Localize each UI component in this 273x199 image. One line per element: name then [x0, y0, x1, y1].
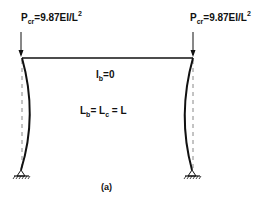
right-column-buckled — [185, 58, 193, 170]
beam-inertia-label: Ib=0 — [96, 70, 114, 82]
right-load-arrow-icon — [191, 32, 196, 57]
left-pin-support-icon — [13, 170, 30, 179]
load-symbol: P — [190, 12, 197, 23]
load-expression: =9.87EI/L — [203, 12, 247, 23]
right-load-label: Pcr=9.87EI/L2 — [190, 10, 251, 25]
load-superscript: 2 — [78, 10, 82, 17]
left-load-arrow-icon — [19, 32, 24, 57]
lc-subscript: c — [105, 111, 109, 118]
length-relation-label: Lb= Lc = L — [80, 106, 127, 118]
load-superscript: 2 — [247, 10, 251, 17]
frame-diagram — [0, 0, 273, 199]
load-symbol: P — [21, 12, 28, 23]
right-pin-support-icon — [184, 170, 201, 179]
equals-2: = L — [112, 105, 127, 116]
left-load-label: Pcr=9.87EI/L2 — [21, 10, 82, 25]
figure-caption: (a) — [101, 182, 112, 192]
equals-1: = — [90, 105, 96, 116]
left-column-buckled — [21, 58, 30, 170]
load-expression: =9.87EI/L — [34, 12, 78, 23]
inertia-expression: =0 — [103, 69, 114, 80]
